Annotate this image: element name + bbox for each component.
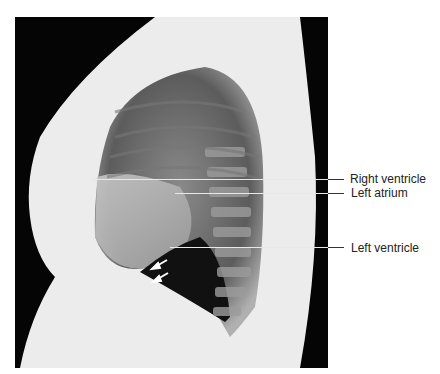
leader-line-right-ventricle-outside xyxy=(328,179,344,180)
leader-line-left-atrium-outside xyxy=(328,193,344,194)
leader-line-left-ventricle xyxy=(170,247,328,248)
leader-line-left-ventricle-outside xyxy=(328,247,344,248)
label-right-ventricle: Right ventricle xyxy=(350,172,426,186)
label-left-atrium: Left atrium xyxy=(351,186,408,200)
leader-line-right-ventricle xyxy=(93,179,328,180)
label-left-ventricle: Left ventricle xyxy=(351,241,419,255)
leader-line-left-atrium xyxy=(175,193,328,194)
